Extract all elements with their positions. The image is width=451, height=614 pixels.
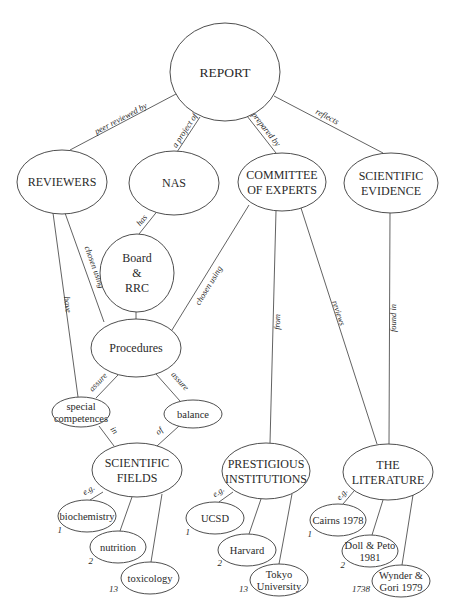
edge-link — [279, 494, 292, 564]
node-label: 1981 — [360, 552, 381, 563]
rank-number: 2 — [218, 558, 223, 568]
node-label: COMMITTEE — [246, 168, 317, 182]
node-label: UCSD — [201, 513, 229, 524]
edge-line — [249, 499, 261, 534]
node-label: balance — [177, 409, 209, 420]
node-label: toxicology — [128, 573, 174, 584]
rank-number: 2 — [89, 556, 94, 566]
node-label: nutrition — [100, 542, 137, 553]
node-harvard: Harvard — [218, 534, 276, 566]
node-committee: COMMITTEEOF EXPERTS — [238, 153, 326, 211]
edge-link: in — [99, 425, 120, 446]
rank-number: 1 — [58, 525, 63, 535]
node-balance: balance — [164, 400, 222, 428]
edge-link — [151, 494, 162, 562]
node-label: Board — [122, 251, 151, 265]
edge-label: from — [272, 314, 282, 330]
node-label: competences — [54, 413, 108, 424]
node-label: biochemistry — [60, 511, 116, 522]
node-the-literature: THELITERATURE — [343, 444, 433, 500]
edge-link: prepared by — [247, 109, 283, 153]
edge-link: of — [153, 424, 179, 446]
edge-line — [151, 494, 162, 562]
node-label: REPORT — [200, 65, 252, 80]
edge-link: chosen using — [172, 205, 249, 330]
edge-label: e.g. — [81, 482, 97, 497]
edge-link — [402, 495, 413, 565]
rank-number: 1738 — [352, 584, 371, 594]
edge-link — [249, 499, 261, 534]
node-procedures: Procedures — [91, 319, 181, 377]
node-label: Wynder & — [379, 570, 423, 581]
node-ucsd: UCSD — [186, 502, 244, 534]
node-toxicology: toxicology — [121, 562, 179, 594]
edge-line — [90, 492, 103, 500]
node-label: Doll & Peto — [345, 540, 396, 551]
node-label: Harvard — [230, 545, 265, 556]
node-scientific-evidence: SCIENTIFICEVIDENCE — [344, 153, 438, 213]
edge-link: a project of — [170, 110, 201, 152]
node-label: OF EXPERTS — [247, 183, 317, 197]
edge-label: of — [153, 424, 166, 437]
edge-link — [120, 497, 132, 531]
edge-link — [372, 500, 383, 535]
node-nas: NAS — [129, 151, 219, 215]
rank-number: 1 — [308, 529, 313, 539]
node-label: Procedures — [109, 341, 163, 355]
edge-label: assure — [169, 370, 191, 393]
node-label: RRC — [125, 281, 149, 295]
edge-link: assure — [156, 370, 191, 401]
rank-number: 1 — [186, 527, 191, 537]
edge-link: assure — [87, 370, 118, 398]
edge-label: in — [108, 425, 120, 436]
edge-line — [120, 497, 132, 531]
edge-line — [372, 500, 383, 535]
node-wynder-gori-1979: Wynder &Gori 1979 — [372, 565, 430, 597]
node-biochemistry: biochemistry — [58, 500, 116, 532]
edge-label: peer reviewed by — [92, 100, 149, 136]
edge-link: e.g. — [334, 486, 354, 504]
edge-link: found in — [388, 213, 398, 444]
node-nutrition: nutrition — [90, 531, 146, 563]
edge-label: e.g. — [210, 484, 226, 499]
node-label: PRESTIGIOUS — [228, 457, 305, 471]
edge-link: reviews — [301, 208, 377, 444]
node-scientific-fields: SCIENTIFICFIELDS — [92, 443, 182, 497]
node-label: Cairns 1978 — [312, 515, 363, 526]
edge-label: have — [62, 296, 74, 313]
node-board-rrc: Board&RRC — [100, 234, 174, 312]
node-tokyo-university: TokyoUniversity — [250, 564, 308, 596]
node-doll-peto-1981: Doll & Peto1981 — [342, 535, 398, 567]
rank-number: 2 — [341, 560, 346, 570]
node-label: EVIDENCE — [361, 184, 421, 198]
node-label: NAS — [162, 176, 186, 190]
node-report: REPORT — [170, 23, 280, 121]
node-label: REVIEWERS — [28, 175, 97, 189]
node-label: & — [132, 266, 142, 280]
edge-line — [402, 495, 413, 565]
edge-line — [274, 96, 383, 153]
node-prestigious-institutions: PRESTIGIOUSINSTITUTIONS — [222, 443, 310, 499]
node-label: Gori 1979 — [380, 582, 423, 593]
rank-number: 13 — [109, 584, 119, 594]
edge-label: reviews — [330, 299, 348, 327]
edge-link: reflects — [274, 96, 383, 153]
edge-label: prepared by — [249, 109, 283, 148]
edge-line — [172, 205, 249, 330]
edge-label: has — [134, 212, 150, 228]
node-label: University — [257, 581, 302, 592]
nodes-layer: REPORTREVIEWERSNASCOMMITTEEOF EXPERTSSCI… — [17, 23, 438, 597]
edge-label: assure — [87, 370, 110, 393]
node-label: special — [66, 401, 95, 412]
edge-line — [279, 494, 292, 564]
rank-number: 13 — [239, 584, 249, 594]
node-reviewers: REVIEWERS — [17, 150, 107, 214]
edge-link: from — [270, 211, 282, 443]
edge-link: have — [53, 213, 78, 397]
node-label: SCIENTIFIC — [105, 456, 170, 470]
node-cairns-1978: Cairns 1978 — [310, 504, 366, 536]
node-label: INSTITUTIONS — [225, 472, 307, 486]
node-label: LITERATURE — [352, 473, 425, 487]
node-special-competences: specialcompetences — [52, 397, 110, 427]
edge-label: found in — [388, 304, 398, 332]
